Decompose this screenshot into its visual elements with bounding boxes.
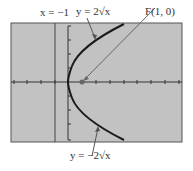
parabola-graph [0, 0, 193, 171]
focus-label: F(1, 0) [145, 6, 175, 17]
upper-curve-label: y = 2√x [76, 6, 110, 17]
lower-curve-label: y = −2√x [70, 150, 110, 161]
directrix-label: x = −1 [40, 7, 69, 18]
